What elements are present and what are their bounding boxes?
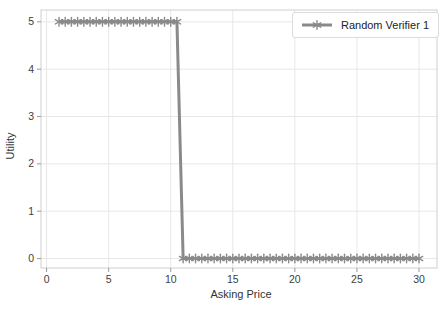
x-tick-label: 0 — [44, 273, 50, 285]
y-tick-label: 5 — [28, 15, 34, 27]
legend-label: Random Verifier 1 — [341, 19, 429, 31]
y-tick-label: 4 — [28, 63, 34, 75]
x-tick-label: 10 — [165, 273, 177, 285]
y-tick-label: 0 — [28, 252, 34, 264]
data-markers — [55, 18, 422, 263]
gridlines — [41, 10, 437, 268]
axes-spines — [41, 10, 437, 268]
x-tick-label: 15 — [227, 273, 239, 285]
data-line — [59, 22, 419, 259]
x-tick-label: 20 — [289, 273, 301, 285]
y-axis-label: Utility — [4, 133, 16, 160]
legend: Random Verifier 1 — [292, 12, 439, 38]
plot-canvas: 051015202530012345 — [0, 0, 446, 316]
y-tick-label: 3 — [28, 110, 34, 122]
y-tick-label: 1 — [28, 205, 34, 217]
tick-labels: 051015202530012345 — [28, 15, 425, 285]
y-tick-label: 2 — [28, 157, 34, 169]
legend-line-sample — [301, 19, 333, 31]
x-axis-label: Asking Price — [36, 288, 446, 300]
x-tick-label: 30 — [413, 273, 425, 285]
chart-figure: 051015202530012345 Utility Asking Price … — [0, 0, 446, 316]
x-tick-label: 5 — [106, 273, 112, 285]
tick-marks — [37, 22, 419, 272]
x-tick-label: 25 — [351, 273, 363, 285]
